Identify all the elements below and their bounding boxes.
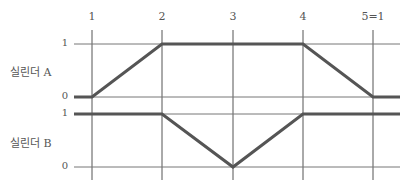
- cylinder-a-low-level: 0: [56, 90, 68, 101]
- cylinder-b-label: 실린더 B: [10, 134, 52, 150]
- step-label-2: 2: [159, 10, 166, 23]
- level-gridlines: [74, 44, 400, 167]
- cylinder-a-trace: [74, 44, 400, 97]
- cylinder-b-high-level: 1: [56, 107, 68, 118]
- cylinder-a-high-level: 1: [56, 37, 68, 48]
- step-gridlines: [92, 30, 373, 180]
- step-label-1: 1: [89, 10, 96, 23]
- step-label-4: 4: [300, 10, 307, 23]
- step-label-5: 5=1: [361, 10, 384, 23]
- step-label-3: 3: [230, 10, 237, 23]
- cylinder-b-low-level: 0: [56, 160, 68, 171]
- cylinder-b-trace: [74, 114, 400, 167]
- cylinder-a-label: 실린더 A: [10, 63, 51, 79]
